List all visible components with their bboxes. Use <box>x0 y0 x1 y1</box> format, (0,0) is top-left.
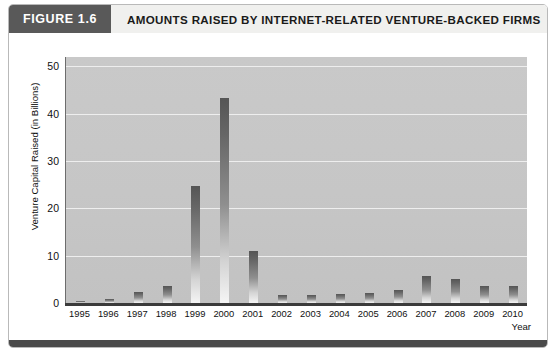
y-axis-tick-label: 40 <box>33 108 59 120</box>
x-axis-tick-label: 1995 <box>69 308 90 319</box>
x-axis-tick-labels: 1995199619971998199920002001200220032004… <box>65 308 527 324</box>
x-axis-tick-label: 1998 <box>156 308 177 319</box>
bar <box>480 286 489 303</box>
bar <box>422 276 431 303</box>
y-axis-tick-label: 0 <box>33 297 59 309</box>
bar <box>249 251 258 303</box>
chart-region: Venture Capital Raised (in Billions) 010… <box>9 33 548 348</box>
bar <box>307 295 316 303</box>
x-axis-title: Year <box>512 321 531 332</box>
x-axis-line <box>65 303 527 306</box>
x-axis-tick-label: 2007 <box>416 308 437 319</box>
figure-title: AMOUNTS RAISED BY INTERNET-RELATED VENTU… <box>127 13 541 26</box>
y-axis-tick-label: 10 <box>33 250 59 262</box>
bar <box>134 292 143 303</box>
x-axis-tick-label: 2001 <box>242 308 263 319</box>
bar <box>451 279 460 303</box>
x-axis-tick-label: 2006 <box>387 308 408 319</box>
bar <box>220 98 229 303</box>
y-axis-tick-label: 30 <box>33 155 59 167</box>
bar <box>278 295 287 304</box>
bar <box>394 290 403 303</box>
bar <box>365 293 374 303</box>
x-axis-tick-label: 2004 <box>329 308 350 319</box>
figure-title-bar: AMOUNTS RAISED BY INTERNET-RELATED VENTU… <box>111 5 548 33</box>
x-axis-tick-label: 2000 <box>213 308 234 319</box>
figure-footer-rule <box>9 340 548 347</box>
bar <box>336 294 345 303</box>
x-axis-tick-label: 1999 <box>185 308 206 319</box>
x-axis-tick-label: 2003 <box>300 308 321 319</box>
y-axis-tick-label: 50 <box>33 60 59 72</box>
figure-header: FIGURE 1.6 AMOUNTS RAISED BY INTERNET-RE… <box>9 5 548 33</box>
bar <box>163 286 172 303</box>
x-axis-tick-label: 2009 <box>473 308 494 319</box>
y-axis-tick-label: 20 <box>33 202 59 214</box>
x-axis-tick-label: 1997 <box>127 308 148 319</box>
x-axis-tick-label: 2010 <box>502 308 523 319</box>
plot-area <box>65 57 527 303</box>
bar <box>509 286 518 303</box>
x-axis-tick-label: 2002 <box>271 308 292 319</box>
figure-card: FIGURE 1.6 AMOUNTS RAISED BY INTERNET-RE… <box>8 4 548 348</box>
figure-number-badge: FIGURE 1.6 <box>9 5 111 33</box>
y-axis-tick-labels: 01020304050 <box>33 33 59 348</box>
bar <box>191 186 200 303</box>
bar-series <box>66 57 527 303</box>
x-axis-tick-label: 2008 <box>444 308 465 319</box>
x-axis-tick-label: 2005 <box>358 308 379 319</box>
x-axis-tick-label: 1996 <box>98 308 119 319</box>
